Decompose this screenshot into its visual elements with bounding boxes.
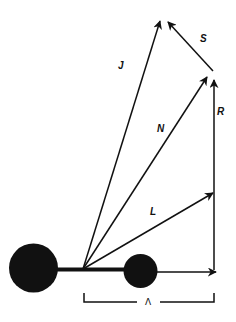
label-lambda: Λ	[145, 297, 152, 307]
molecular-vector-diagram: J N L R S Λ	[0, 0, 236, 322]
vector-n-arrow	[83, 77, 207, 269]
label-r: R	[217, 106, 225, 117]
label-j: J	[118, 60, 124, 71]
label-l: L	[150, 206, 156, 217]
vector-s-arrow	[168, 22, 213, 71]
label-n: N	[157, 123, 165, 134]
large-atom	[9, 244, 58, 293]
label-s: S	[200, 33, 207, 44]
vector-j-arrow	[83, 21, 160, 269]
small-atom	[124, 254, 158, 288]
bond-bar	[56, 268, 126, 272]
